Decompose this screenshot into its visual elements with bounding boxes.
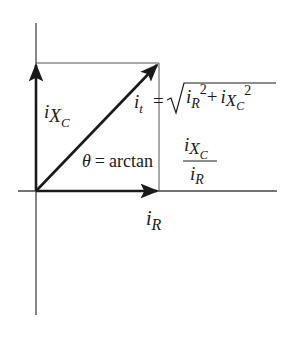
total-current-label: it <box>134 91 143 116</box>
theta-expression: θ=arctan <box>82 151 153 171</box>
equals-sign: = <box>153 90 164 111</box>
total-current-vector <box>36 65 157 191</box>
fraction-numerator: iXC <box>184 134 209 162</box>
resistive-current-label: iR <box>146 207 162 233</box>
phasor-diagram: iXC it = iR2+iXC2 θ=arctan iXC iR iR <box>0 0 286 340</box>
sqrt-expression: iR2+iXC2 <box>186 82 251 113</box>
capacitive-current-label: iXC <box>44 101 70 130</box>
fraction-denominator: iR <box>190 163 204 187</box>
